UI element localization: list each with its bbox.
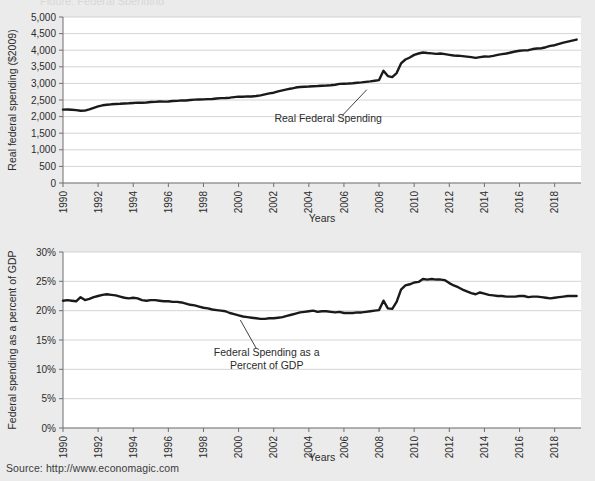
x-axis-tick-label: 1996 [163,436,174,459]
y-axis-title: Federal spending as a percent of GDP [6,250,18,429]
x-axis-tick-label: 1994 [128,191,139,214]
x-axis-tick-label: 1994 [128,436,139,459]
y-axis-tick-label: 3,000 [31,78,56,89]
x-axis-tick-label: 1998 [198,191,209,214]
x-axis-tick-label: 2016 [514,191,525,214]
y-axis-tick-label: 2,000 [31,111,56,122]
y-axis-tick-label: 4,500 [31,28,56,39]
y-axis-tick-label: 5,000 [31,12,56,23]
x-axis-tick-label: 1996 [163,191,174,214]
x-axis-tick-label: 2018 [549,436,560,459]
x-axis-tick-label: 2010 [409,436,420,459]
y-axis-tick-label: 10% [36,364,56,375]
x-axis-tick-label: 1998 [198,436,209,459]
figure-canvas: 05001,0001,5002,0002,5003,0003,5004,0004… [0,0,595,481]
x-axis-tick-label: 2008 [374,436,385,459]
x-axis-tick-label: 2018 [549,191,560,214]
y-axis-title: Real federal spending ($2009) [6,29,18,170]
y-axis-tick-label: 4,000 [31,45,56,56]
x-axis-tick-label: 2000 [233,436,244,459]
x-axis-tick-label: 2004 [303,191,314,214]
chart-federal-spending-percent-gdp: 0%5%10%15%20%25%30%199019921994199619982… [6,247,581,463]
x-axis-tick-label: 2012 [444,436,455,459]
y-axis-tick-label: 0 [50,178,56,189]
y-axis-tick-label: 25% [36,276,56,287]
y-axis-tick-label: 2,500 [31,95,56,106]
y-axis-tick-label: 30% [36,247,56,258]
y-axis-tick-label: 500 [39,161,56,172]
y-axis-tick-label: 1,500 [31,128,56,139]
x-axis-tick-label: 2002 [268,436,279,459]
x-axis-tick-label: 1992 [93,436,104,459]
y-axis-tick-label: 20% [36,305,56,316]
y-axis-tick-label: 0% [42,423,57,434]
source-note: Source: http://www.economagic.com [6,462,179,474]
x-axis-tick-label: 2016 [514,436,525,459]
x-axis-tick-label: 2006 [339,191,350,214]
x-axis-tick-label: 1990 [58,191,69,214]
y-axis-tick-label: 3,500 [31,61,56,72]
y-axis-tick-label: 5% [42,393,57,404]
x-axis-tick-label: 2008 [374,191,385,214]
y-axis-tick-label: 1,000 [31,144,56,155]
x-axis-tick-label: 2014 [479,436,490,459]
annotation-label: Federal Spending as a [214,346,320,358]
x-axis-tick-label: 1990 [58,436,69,459]
y-axis-tick-label: 15% [36,335,56,346]
x-axis-title: Years [309,451,335,463]
annotation-label: Percent of GDP [230,359,304,371]
x-axis-tick-label: 2012 [444,191,455,214]
x-axis-tick-label: 1992 [93,191,104,214]
x-axis-tick-label: 2010 [409,191,420,214]
x-axis-tick-label: 2002 [268,191,279,214]
x-axis-tick-label: 2006 [339,436,350,459]
x-axis-tick-label: 2000 [233,191,244,214]
annotation-label: Real Federal Spending [274,112,382,124]
x-axis-tick-label: 2014 [479,191,490,214]
x-axis-title: Years [309,212,335,224]
chart-real-federal-spending: 05001,0001,5002,0002,5003,0003,5004,0004… [6,12,581,224]
